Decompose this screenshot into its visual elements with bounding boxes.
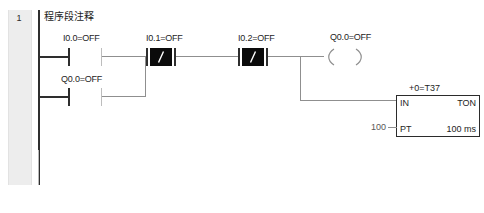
- wire-branch-merge-vertical: [145, 56, 146, 97]
- contact-i00-bar-left: [68, 48, 70, 66]
- timer-type-label: TON: [457, 97, 476, 109]
- wire-i00-to-junction: [102, 56, 146, 57]
- contact-i02-bar-left: [238, 48, 240, 66]
- contact-i01-label: I0.1=OFF: [146, 33, 183, 44]
- coil-icon: [322, 47, 368, 67]
- timer-t37-block[interactable]: IN TON PT 100 ms: [396, 95, 480, 137]
- wire-i01-to-i02: [176, 56, 240, 57]
- contact-q00-branch-bar-right: [101, 88, 102, 106]
- timer-pt-label: PT: [400, 123, 412, 135]
- contact-i02-label: I0.2=OFF: [238, 33, 275, 44]
- ladder-canvas: 1 程序段注释 I0.0=OFF I0.1=OFF I0.2=OFF: [0, 0, 484, 213]
- contact-i01-bar-right: [174, 48, 176, 66]
- wire-timer-feed-horizontal: [300, 100, 396, 101]
- timer-in-label: IN: [400, 97, 409, 109]
- wire-q00-branch-right: [102, 96, 146, 97]
- contact-i02-bar-right: [266, 48, 268, 66]
- slash-icon: [242, 48, 264, 66]
- slash-icon: [150, 48, 172, 66]
- contact-i02[interactable]: [242, 48, 264, 66]
- timer-pt-value[interactable]: 100: [358, 122, 386, 133]
- contact-q00-branch[interactable]: [68, 88, 102, 106]
- wire-rail-to-q00-branch: [40, 96, 68, 98]
- wire-pt-input-stub: [388, 127, 397, 128]
- timer-timebase-label: 100 ms: [446, 123, 476, 135]
- timer-t37-name: +0=T37: [409, 83, 440, 94]
- contact-q00-branch-label: Q0.0=OFF: [61, 74, 102, 85]
- contact-i00-bar-right: [101, 48, 102, 66]
- wire-timer-feed-vertical: [300, 56, 301, 101]
- network-number: 1: [8, 11, 30, 25]
- contact-q00-branch-bar-left: [68, 88, 70, 106]
- contact-i00-label: I0.0=OFF: [63, 33, 100, 44]
- network-gutter: [8, 10, 32, 185]
- coil-q00-label: Q0.0=OFF: [330, 32, 371, 43]
- contact-i00[interactable]: [68, 48, 102, 66]
- coil-q00[interactable]: [322, 47, 368, 67]
- contact-i01[interactable]: [150, 48, 172, 66]
- contact-i01-bar-left: [146, 48, 148, 66]
- network-comment: 程序段注释: [38, 9, 94, 25]
- power-rail-tail: [38, 150, 39, 185]
- wire-i02-to-coil: [268, 56, 324, 57]
- wire-rail-to-i00: [40, 56, 68, 58]
